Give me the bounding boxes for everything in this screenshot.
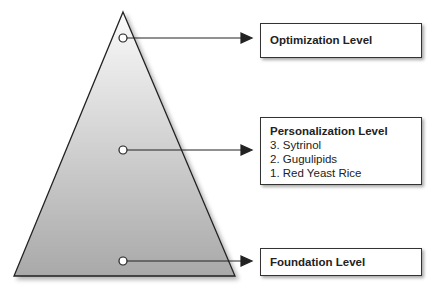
optimization-level-box: Optimization Level bbox=[260, 23, 422, 58]
marker-personalization-icon bbox=[119, 146, 127, 154]
arrow-personalization-icon bbox=[241, 145, 252, 155]
personalization-level-title: Personalization Level bbox=[270, 124, 421, 138]
foundation-level-title: Foundation Level bbox=[270, 256, 365, 268]
marker-optimization-icon bbox=[119, 34, 127, 42]
list-item: 2. Gugulipids bbox=[270, 152, 421, 166]
optimization-level-title: Optimization Level bbox=[270, 34, 372, 46]
personalization-level-box: Personalization Level 3. Sytrinol 2. Gug… bbox=[260, 117, 422, 185]
pyramid-triangle bbox=[14, 12, 235, 276]
list-item: 3. Sytrinol bbox=[270, 138, 421, 152]
arrow-optimization-icon bbox=[241, 33, 252, 43]
arrow-foundation-icon bbox=[241, 256, 252, 266]
foundation-level-box: Foundation Level bbox=[260, 248, 422, 276]
marker-foundation-icon bbox=[119, 257, 127, 265]
list-item: 1. Red Yeast Rice bbox=[270, 166, 421, 180]
